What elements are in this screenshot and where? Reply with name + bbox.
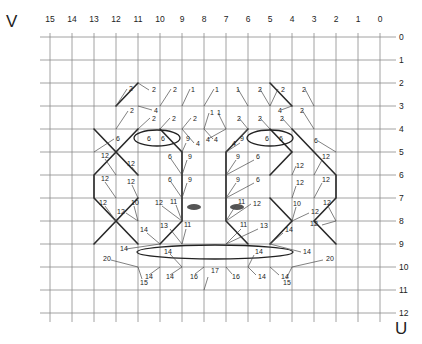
cell-label: 6	[168, 176, 172, 183]
cell-label: 2	[130, 107, 134, 114]
cell-label: 11	[238, 198, 245, 205]
cell-label: 12	[296, 179, 304, 186]
cell-label: 4	[214, 136, 218, 143]
cell-label: 12	[296, 162, 304, 169]
leader-line	[318, 141, 336, 152]
column-number: 8	[202, 14, 207, 24]
cell-label: 1	[210, 109, 214, 116]
leader-line	[305, 89, 314, 106]
cell-label: 17	[211, 267, 219, 274]
cell-label: 2	[281, 86, 285, 93]
cell-label: 11	[170, 198, 177, 205]
cell-label: 2	[280, 115, 284, 122]
leader-line	[170, 254, 182, 267]
row-number: 7	[399, 193, 404, 203]
leader-line	[270, 89, 278, 106]
cell-label: 2	[129, 85, 133, 92]
cell-label: 11	[184, 221, 191, 228]
cell-label: 6	[256, 153, 260, 160]
cell-label: 12	[155, 199, 163, 206]
row-number: 5	[399, 147, 404, 157]
column-number: 9	[180, 14, 185, 24]
cell-label: 13	[260, 222, 268, 229]
cell-label: 4	[232, 140, 236, 147]
leader-line	[170, 229, 182, 244]
cell-label: 10	[293, 200, 301, 207]
fold-line	[94, 129, 116, 244]
cell-label: 12	[117, 208, 125, 215]
cell-label: 4	[278, 107, 282, 114]
row-number: 12	[399, 308, 409, 318]
cell-label: 2	[258, 86, 262, 93]
column-number: 1	[356, 14, 361, 24]
leader-line	[116, 89, 127, 106]
column-number: 15	[45, 14, 55, 24]
column-number: 10	[155, 14, 165, 24]
cell-label: 1	[191, 86, 195, 93]
cell-label: 14	[255, 248, 263, 255]
row-number: 4	[399, 124, 404, 134]
column-number: 6	[246, 14, 251, 24]
row-number: 0	[399, 32, 404, 42]
cell-label: 12	[99, 199, 107, 206]
column-number: 5	[268, 14, 273, 24]
column-number: 13	[89, 14, 99, 24]
row-number: 10	[399, 262, 409, 272]
leader-line	[182, 143, 186, 152]
leader-line	[314, 160, 322, 175]
cell-label: 12	[127, 160, 135, 167]
leader-line	[226, 160, 254, 175]
cell-label: 14	[164, 248, 172, 255]
leader-line	[204, 113, 209, 129]
leader-line	[270, 233, 283, 244]
ellipse-markers	[134, 130, 293, 259]
leader-line	[171, 182, 182, 198]
number-labels: 2221112222422211224224466694946661212699…	[99, 85, 334, 286]
cell-label: 6	[265, 135, 269, 142]
leader-line	[314, 183, 322, 198]
row-ticks	[390, 37, 396, 313]
cell-label: 2	[152, 115, 156, 122]
cell-label: 9	[188, 153, 192, 160]
leader-line	[138, 106, 152, 110]
cell-label: 16	[232, 273, 240, 280]
leader-line	[292, 260, 323, 267]
cell-label: 14	[140, 226, 148, 233]
cell-label: 12	[127, 178, 135, 185]
cell-label: 2	[152, 86, 156, 93]
column-number: 4	[290, 14, 295, 24]
column-number: 2	[334, 14, 339, 24]
leader-line	[248, 267, 256, 275]
leader-line	[204, 89, 214, 106]
column-number: 14	[67, 14, 77, 24]
column-number: 3	[312, 14, 317, 24]
leader-line	[226, 229, 241, 244]
leader-line	[204, 277, 208, 290]
cell-label: 13	[160, 222, 168, 229]
leader-line	[328, 206, 336, 221]
cell-label: 6	[116, 135, 120, 142]
leader-line	[281, 106, 292, 110]
cell-label: 15	[140, 279, 148, 286]
leader-line	[111, 260, 138, 267]
cell-label: 6	[256, 176, 260, 183]
row-number: 1	[399, 55, 404, 65]
cell-label: 16	[190, 273, 198, 280]
leader-line	[132, 167, 138, 175]
leader-line	[226, 183, 236, 198]
cell-label: 2	[258, 115, 262, 122]
row-number: 2	[399, 78, 404, 88]
cell-label: 20	[326, 255, 334, 262]
cell-label: 2	[300, 107, 304, 114]
cell-label: 9	[188, 176, 192, 183]
cell-label: 6	[279, 135, 283, 142]
cell-label: 1	[217, 109, 221, 116]
column-number: 12	[111, 14, 121, 24]
column-number: 11	[134, 14, 143, 24]
leader-line	[322, 221, 336, 225]
leader-line	[292, 213, 309, 221]
leader-line	[160, 118, 170, 129]
cell-label: 9	[240, 135, 244, 142]
cell-label: 10	[131, 199, 139, 206]
pattern-grid-diagram: 2221112222422211224224466694946661212699…	[0, 0, 422, 344]
